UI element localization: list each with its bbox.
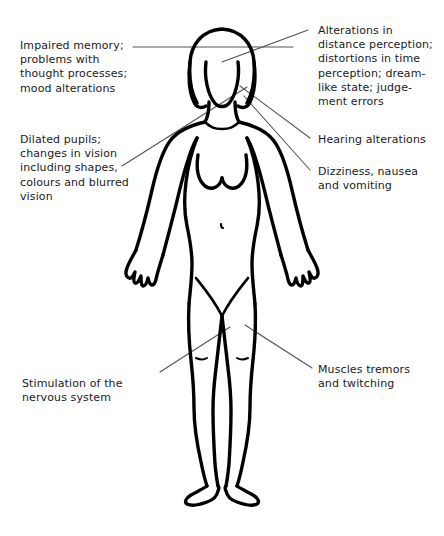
left-leg-outer bbox=[189, 304, 207, 486]
clavicle-notch bbox=[205, 122, 239, 129]
left-knee bbox=[196, 358, 207, 360]
annotation-dizziness-nausea-vomiting: Dizziness, nausea and vomiting bbox=[318, 165, 440, 193]
annotation-muscle-tremors-twitching: Muscles tremors and twitching bbox=[318, 363, 436, 391]
annotation-hearing-alterations: Hearing alterations bbox=[318, 133, 440, 147]
right-foot bbox=[225, 486, 258, 505]
left-foot bbox=[186, 486, 219, 505]
right-leg-inner bbox=[222, 316, 231, 486]
annotation-dilated-pupils: Dilated pupils; changes in vision includ… bbox=[20, 133, 148, 204]
diagram-canvas: Impaired memory; problems with thought p… bbox=[0, 0, 444, 536]
leader-line-perception bbox=[222, 30, 308, 62]
annotation-perception-alterations: Alterations in distance perception; dist… bbox=[318, 24, 440, 109]
right-breast bbox=[222, 155, 247, 188]
right-hand bbox=[281, 250, 318, 286]
face-outline bbox=[205, 62, 238, 107]
hair-outline bbox=[190, 29, 254, 103]
left-hand bbox=[126, 250, 163, 286]
left-breast bbox=[197, 155, 222, 188]
groin-line bbox=[196, 278, 248, 316]
right-knee bbox=[237, 358, 248, 360]
navel bbox=[221, 224, 223, 228]
annotation-nervous-system-stimulation: Stimulation of the nervous system bbox=[22, 377, 162, 405]
annotation-impaired-memory: Impaired memory; problems with thought p… bbox=[20, 39, 145, 96]
right-leg-outer bbox=[237, 304, 255, 486]
body-outline bbox=[126, 29, 318, 505]
left-leg-inner bbox=[213, 316, 222, 486]
